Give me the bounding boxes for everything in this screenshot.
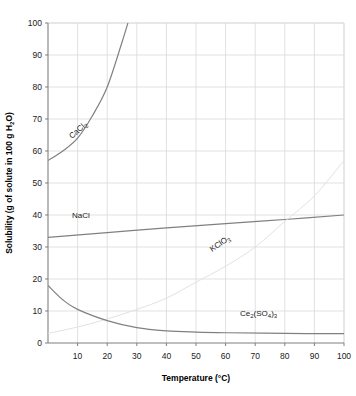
chart-canvas: 0102030405060708090100102030405060708090… (0, 0, 356, 396)
x-tick-label: 10 (73, 351, 83, 361)
series-label-ce2so43: Ce2(SO4)3 (240, 309, 278, 319)
y-tick-label: 80 (33, 82, 43, 92)
y-tick-label: 100 (28, 18, 42, 28)
y-tick-label: 40 (33, 210, 43, 220)
x-tick-label: 40 (162, 351, 172, 361)
x-tick-label: 20 (102, 351, 112, 361)
x-tick-label: 50 (191, 351, 201, 361)
y-tick-label: 50 (33, 178, 43, 188)
y-tick-label: 70 (33, 114, 43, 124)
y-tick-label: 0 (37, 338, 42, 348)
x-tick-label: 80 (280, 351, 290, 361)
svg-text:Solubility (g of solute in 100: Solubility (g of solute in 100 g H2O) (4, 112, 15, 254)
y-tick-label: 30 (33, 242, 43, 252)
x-tick-label: 30 (132, 351, 142, 361)
series-label-nacl: NaCl (72, 211, 90, 220)
x-tick-label: 100 (337, 351, 351, 361)
x-tick-label: 70 (250, 351, 260, 361)
chart-background (0, 0, 356, 396)
y-axis-title: Solubility (g of solute in 100 g H2O) (4, 112, 15, 254)
y-tick-label: 90 (33, 50, 43, 60)
y-tick-label: 20 (33, 274, 43, 284)
y-tick-label: 10 (33, 306, 43, 316)
x-axis-title: Temperature (°C) (162, 373, 231, 383)
x-tick-label: 60 (221, 351, 231, 361)
solubility-chart: 0102030405060708090100102030405060708090… (0, 0, 356, 396)
y-tick-label: 60 (33, 146, 43, 156)
x-tick-label: 90 (310, 351, 320, 361)
